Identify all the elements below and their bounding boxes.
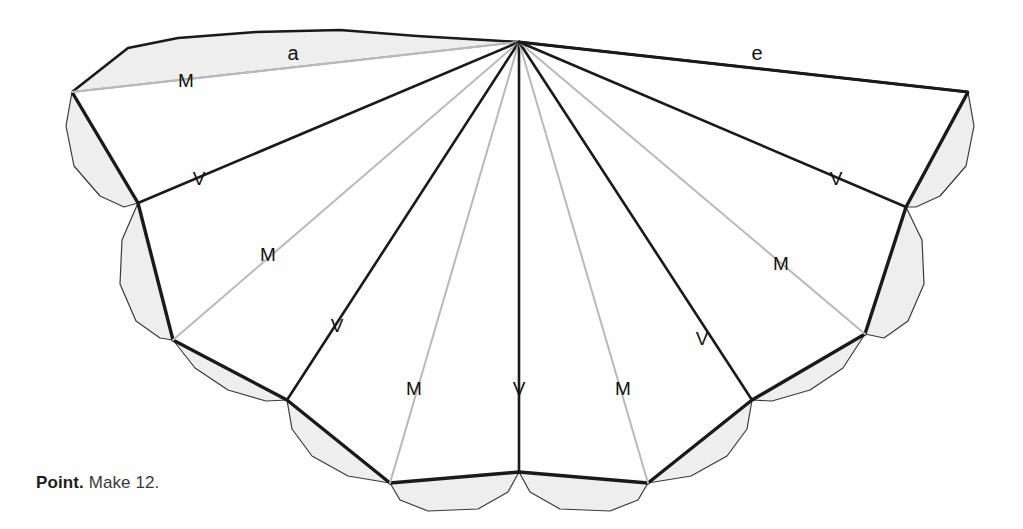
crease-v-4 — [519, 42, 906, 207]
crease-v-2 — [287, 42, 519, 400]
flap-right-2 — [865, 207, 924, 338]
crease-label-m-4: M — [615, 378, 631, 399]
edge-label-a: a — [287, 42, 299, 64]
crease-lines-group — [72, 42, 968, 483]
crease-label-v-3: V — [696, 328, 709, 349]
crease-m-2 — [173, 42, 519, 340]
crease-label-m-1: M — [178, 70, 194, 91]
crease-m-5 — [519, 42, 865, 334]
caption-lead: Point. — [36, 473, 84, 492]
flap-left-1 — [66, 92, 138, 207]
crease-label-v-1: V — [193, 168, 206, 189]
crease-label-m-5: M — [773, 253, 789, 274]
crease-label-m-2: M — [260, 244, 276, 265]
figure-caption: Point. Make 12. — [36, 473, 159, 493]
crease-m-4 — [519, 42, 648, 483]
flap-left-2 — [120, 203, 173, 340]
crease-label-v-2: V — [331, 315, 344, 336]
crease-labels-group: MVMVMVMVMV — [178, 70, 843, 399]
origami-crease-pattern-figure: MVMVMVMVMV ae — [0, 0, 1023, 529]
crease-right-edge-e — [519, 42, 968, 92]
crease-v-3 — [519, 42, 752, 400]
crease-label-m-3: M — [406, 378, 422, 399]
crease-label-v-center: V — [513, 378, 526, 399]
caption-body: Make 12. — [89, 473, 160, 492]
edge-label-e: e — [751, 42, 762, 64]
crease-label-v-4: V — [830, 168, 843, 189]
crease-m-3 — [390, 42, 519, 483]
